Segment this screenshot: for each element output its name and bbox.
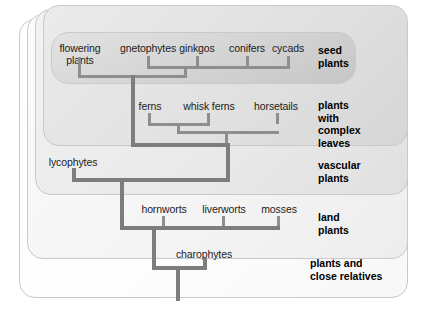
taxon-label-liverworts: liverworts — [196, 203, 252, 215]
group-label-vascular-plants-line2: plants — [318, 172, 361, 185]
group-label-vascular-plants: vascular plants — [318, 159, 361, 184]
group-label-complex-leaves-line1: plants — [318, 99, 361, 112]
node-bryophytes-bar — [120, 226, 280, 230]
group-label-complex-leaves-line4: leaves — [318, 137, 361, 150]
branch-tip-horsetails — [276, 113, 279, 124]
group-label-plants-relatives-line2: close relatives — [310, 270, 382, 283]
taxon-label-lycophytes: lycophytes — [42, 156, 104, 168]
node-gymnosperms-bar — [147, 66, 290, 69]
taxon-label-cycads: cycads — [265, 42, 311, 54]
group-label-seed-plants-line1: seed — [318, 44, 349, 57]
group-label-seed-plants-line2: plants — [318, 57, 349, 70]
node-vascular-plants-stem — [120, 178, 124, 230]
group-label-land-plants: land plants — [318, 211, 349, 236]
node-complex-leaves-bar — [131, 143, 229, 147]
group-label-plants-with-complex-leaves: plants with complex leaves — [318, 99, 361, 149]
group-label-plants-relatives-line1: plants and — [310, 257, 382, 270]
root-stem — [176, 266, 180, 301]
group-label-complex-leaves-line3: complex — [318, 124, 361, 137]
taxon-label-flowering-plants-line1: flowering — [59, 42, 100, 54]
node-complex-leaves-stem — [226, 143, 230, 179]
node-monilophytes-bar — [177, 131, 279, 134]
branch-tip-flowering-plants — [78, 57, 81, 76]
taxon-label-ferns: ferns — [131, 100, 169, 112]
taxon-label-whisk-ferns: whisk ferns — [178, 100, 240, 112]
group-label-vascular-plants-line1: vascular — [318, 159, 361, 172]
taxon-label-horsetails: horsetails — [247, 100, 305, 112]
group-label-seed-plants: seed plants — [318, 44, 349, 69]
group-label-land-plants-line1: land — [318, 211, 349, 224]
taxon-label-mosses: mosses — [256, 203, 302, 215]
node-land-plants-stem — [152, 226, 156, 268]
taxon-label-hornworts: hornworts — [136, 203, 192, 215]
node-seed-plants-stem — [131, 75, 135, 144]
taxon-label-ginkgos: ginkgos — [172, 42, 222, 54]
group-label-complex-leaves-line2: with — [318, 112, 361, 125]
phylogenetic-tree-figure: seed plants plants with complex leaves v… — [0, 0, 425, 317]
group-label-land-plants-line2: plants — [318, 224, 349, 237]
group-label-plants-and-close-relatives: plants and close relatives — [310, 257, 382, 282]
node-vascular-plants-bar — [72, 178, 230, 182]
